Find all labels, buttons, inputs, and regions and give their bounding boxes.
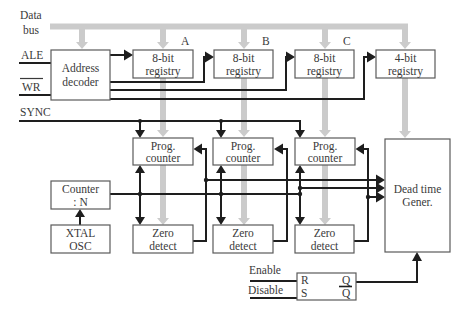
- disable-label: Disable: [248, 284, 283, 296]
- prog-counter-1: Prog. counter: [133, 138, 193, 165]
- registry-b: 8-bit registry: [214, 50, 273, 78]
- svg-text:Zero: Zero: [314, 227, 336, 239]
- svg-text:Dead time: Dead time: [394, 183, 442, 195]
- wr-label: WR: [22, 81, 41, 93]
- latch-q-bar-pin: Q: [342, 287, 351, 299]
- svg-text:Zero: Zero: [152, 227, 174, 239]
- registry-c-tag: C: [343, 35, 351, 47]
- svg-text:Counter: Counter: [62, 183, 99, 195]
- sync-line: [19, 121, 300, 131]
- latch-s-pin: S: [301, 287, 307, 299]
- svg-text:Address: Address: [62, 62, 100, 74]
- enable-label: Enable: [249, 264, 281, 276]
- zero-detect-3: Zero detect: [295, 225, 354, 253]
- svg-text:decoder: decoder: [62, 76, 99, 88]
- xtal-osc: XTAL OSC: [51, 225, 110, 253]
- block-diagram: Data bus ALE WR SYNC: [0, 0, 470, 316]
- address-decoder: Address decoder: [51, 50, 110, 100]
- svg-text:detect: detect: [311, 240, 339, 252]
- latch-output-line: [356, 260, 417, 282]
- data-bus-label-line1: Data: [20, 9, 42, 21]
- svg-text:8-bit: 8-bit: [152, 52, 175, 64]
- svg-text:OSC: OSC: [69, 240, 92, 252]
- svg-text:registry: registry: [307, 65, 342, 78]
- registry-4bit: 4-bit registry: [376, 50, 435, 78]
- registry-c: 8-bit registry: [295, 50, 354, 78]
- dead-time-inputs: [204, 175, 385, 203]
- svg-text:Gener.: Gener.: [402, 196, 432, 208]
- dead-time-generator: Dead time Gener.: [385, 139, 450, 252]
- svg-text:XTAL: XTAL: [66, 227, 96, 239]
- svg-text:8-bit: 8-bit: [314, 52, 337, 64]
- svg-text:registry: registry: [145, 65, 180, 78]
- prog-counter-2: Prog. counter: [213, 138, 273, 165]
- latch-r-pin: R: [301, 274, 309, 286]
- svg-text:counter: counter: [146, 152, 181, 164]
- counter-n: Counter : N: [51, 181, 110, 209]
- data-bus-label-line2: bus: [23, 24, 40, 36]
- svg-text:: N: : N: [73, 196, 88, 208]
- svg-text:counter: counter: [308, 152, 343, 164]
- svg-text:Zero: Zero: [232, 227, 254, 239]
- sync-label: SYNC: [20, 106, 51, 118]
- svg-text:4-bit: 4-bit: [395, 52, 418, 64]
- svg-text:registry: registry: [388, 65, 423, 78]
- svg-text:8-bit: 8-bit: [233, 52, 256, 64]
- registry-a: 8-bit registry: [133, 50, 193, 78]
- svg-text:registry: registry: [226, 65, 261, 78]
- registry-b-tag: B: [262, 35, 270, 47]
- sr-latch: R S Q Q: [297, 273, 356, 300]
- zero-detect-1: Zero detect: [133, 225, 193, 253]
- zero-detect-2: Zero detect: [213, 225, 273, 253]
- svg-text:counter: counter: [226, 152, 261, 164]
- prog-counter-3: Prog. counter: [295, 138, 355, 165]
- svg-text:detect: detect: [229, 240, 257, 252]
- svg-text:detect: detect: [149, 240, 177, 252]
- ale-label: ALE: [21, 49, 43, 61]
- registry-a-tag: A: [181, 35, 190, 47]
- latch-q-pin: Q: [342, 274, 351, 286]
